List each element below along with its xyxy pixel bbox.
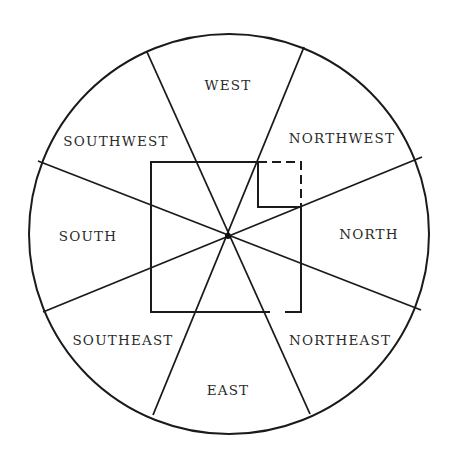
- compass-house-diagram: WEST NORTHWEST NORTH NORTHEAST EAST SOUT…: [0, 0, 457, 452]
- label-south: SOUTH: [59, 228, 117, 244]
- label-north: NORTH: [339, 226, 399, 242]
- label-southwest: SOUTHWEST: [63, 133, 168, 149]
- house-dashed-extension: [258, 162, 301, 207]
- center-point: [225, 233, 231, 239]
- label-east: EAST: [207, 382, 250, 398]
- label-southeast: SOUTHEAST: [72, 332, 173, 348]
- label-northwest: NORTHWEST: [289, 130, 395, 146]
- label-west: WEST: [205, 77, 252, 93]
- label-northeast: NORTHEAST: [289, 332, 391, 348]
- spoke-northwest-southeast: [153, 47, 304, 415]
